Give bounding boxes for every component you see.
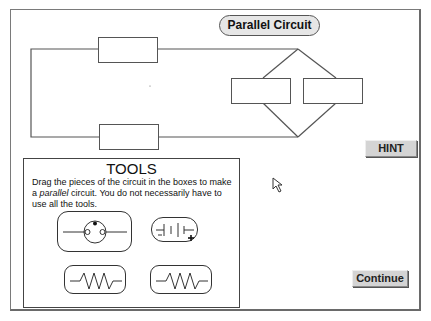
instructions-emphasis: parallel [40, 188, 69, 198]
tools-instructions: Drag the pieces of the circuit in the bo… [32, 177, 237, 210]
resistor-icon [151, 266, 213, 295]
drop-box-parallel-right[interactable] [303, 78, 363, 104]
mouse-cursor-icon [272, 177, 284, 193]
continue-button[interactable]: Continue [352, 270, 408, 287]
tool-battery[interactable] [151, 217, 198, 242]
tools-heading: TOOLS [24, 160, 239, 177]
page-title: Parallel Circuit [219, 15, 320, 36]
drop-box-parallel-left[interactable] [231, 78, 291, 104]
resistor-icon [65, 266, 127, 295]
tools-panel: TOOLS Drag the pieces of the circuit in … [23, 158, 240, 308]
hint-button[interactable]: HINT [365, 140, 417, 157]
tool-resistor-1[interactable] [64, 265, 126, 294]
battery-icon [152, 218, 199, 243]
drop-box-top[interactable] [98, 37, 158, 63]
tool-resistor-2[interactable] [150, 265, 212, 294]
bulb-icon [58, 212, 133, 253]
tool-light-bulb[interactable] [57, 211, 132, 252]
drop-box-bottom[interactable] [99, 124, 159, 150]
